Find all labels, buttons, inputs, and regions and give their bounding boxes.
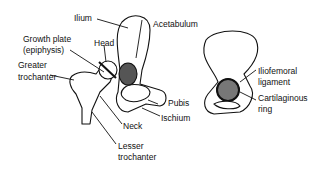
label-lesser-trochanter: trochanter bbox=[118, 152, 156, 162]
label-ischium: Ischium bbox=[161, 113, 190, 123]
label-head: Head bbox=[94, 38, 114, 48]
label-ring: ring bbox=[258, 104, 272, 114]
label-iliofemoral: Iliofemoral bbox=[258, 66, 297, 76]
label-neck: Neck bbox=[123, 121, 142, 131]
label-ilium: Ilium bbox=[74, 13, 92, 23]
label-ligament: ligament bbox=[258, 77, 290, 87]
label-greater: Greater bbox=[18, 60, 47, 70]
label-lesser: Lesser bbox=[118, 141, 144, 151]
label-growth-plate: Growth plate bbox=[23, 34, 71, 44]
label-epiphysis: (epiphysis) bbox=[23, 45, 64, 55]
label-acetabulum: Acetabulum bbox=[153, 19, 198, 29]
label-cartilaginous: Cartilaginous bbox=[258, 93, 308, 103]
label-greater-trochanter: trochanter bbox=[18, 72, 56, 82]
label-pubis: Pubis bbox=[168, 98, 189, 108]
